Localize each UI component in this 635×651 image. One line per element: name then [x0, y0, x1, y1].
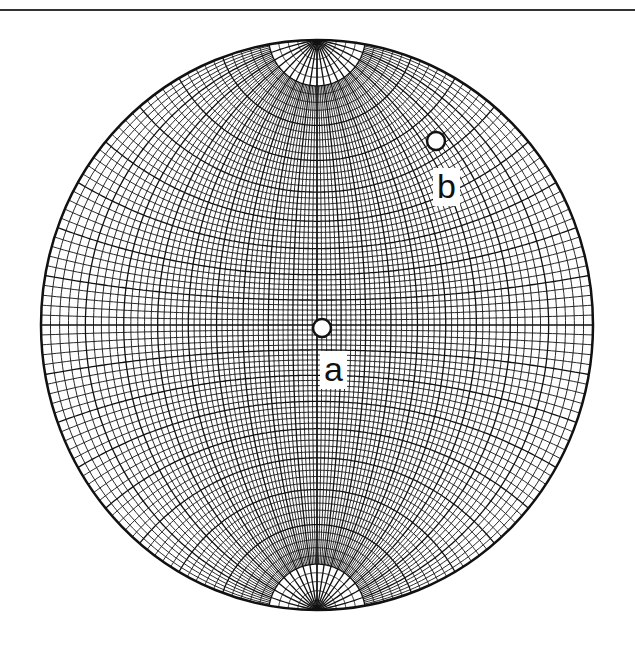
point-label-b: b — [433, 168, 460, 206]
stereonet-diagram — [0, 0, 635, 651]
point-marker-b — [427, 132, 445, 150]
point-label-a: a — [320, 351, 347, 389]
point-marker-a — [313, 319, 331, 337]
